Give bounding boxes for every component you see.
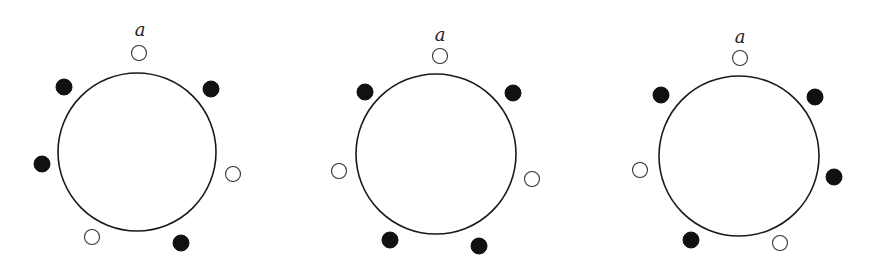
filled-bead-left (34, 156, 50, 172)
filled-bead-lower-right (471, 238, 487, 254)
open-bead-right (226, 167, 241, 182)
start-label: a (435, 24, 446, 45)
filled-bead-upper-right (807, 89, 823, 105)
filled-bead-upper-right (203, 81, 219, 97)
start-label: a (735, 26, 746, 47)
open-bead-top (733, 51, 748, 66)
filled-bead-lower-left (382, 232, 398, 248)
open-bead-lower-left (85, 230, 100, 245)
open-bead-left (633, 163, 648, 178)
filled-bead-right (826, 169, 842, 185)
open-bead-left (332, 164, 347, 179)
open-bead-lower-right (773, 236, 788, 251)
open-bead-top (132, 46, 147, 61)
filled-bead-upper-left (357, 84, 373, 100)
filled-bead-lower-left (683, 232, 699, 248)
open-bead-top (433, 49, 448, 64)
filled-bead-upper-right (505, 85, 521, 101)
filled-bead-upper-left (653, 87, 669, 103)
open-bead-right (525, 172, 540, 187)
filled-bead-upper-left (56, 79, 72, 95)
necklace-diagram-figure: a a a (0, 0, 875, 277)
start-label: a (135, 19, 146, 40)
filled-bead-lower-right (173, 235, 189, 251)
